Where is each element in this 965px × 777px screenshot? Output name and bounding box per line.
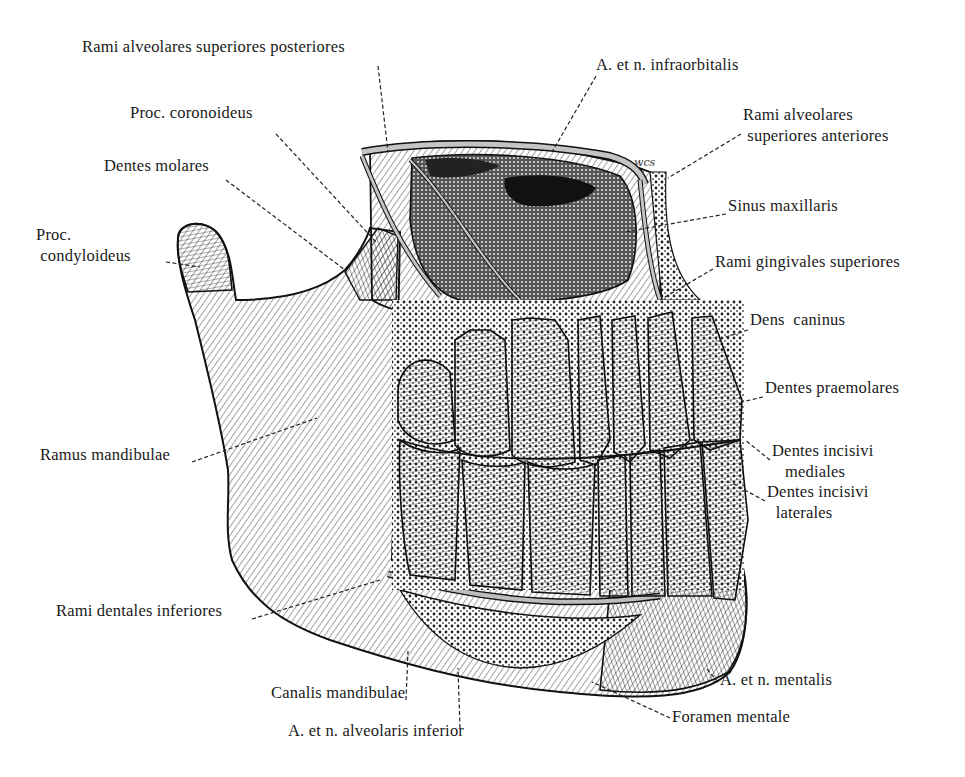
leader-line-dentes-molares bbox=[226, 180, 345, 270]
label-rami-dentales-inferiores: Rami dentales inferiores bbox=[56, 600, 222, 621]
teeth bbox=[392, 300, 748, 600]
leader-line-rami-alveolares-superiores-anteriores bbox=[668, 134, 741, 178]
artist-signature: wcs bbox=[634, 156, 656, 169]
label-rami-alveolares-superiores-posteriores: Rami alveolares superiores posteriores bbox=[82, 36, 345, 57]
leader-line-rami-alveolares-superiores-posteriores bbox=[378, 66, 388, 152]
label-dentes-praemolares: Dentes praemolares bbox=[765, 377, 899, 398]
label-dentes-incisivi-mediales: Dentes incisivi mediales bbox=[772, 440, 874, 482]
label-rami-alveolares-superiores-anteriores: Rami alveolares superiores anteriores bbox=[743, 104, 889, 146]
label-dentes-incisivi-laterales: Dentes incisivi laterales bbox=[767, 481, 869, 523]
label-canalis-mandibulae: Canalis mandibulae bbox=[271, 682, 405, 703]
label-proc-coronoideus: Proc. coronoideus bbox=[130, 102, 253, 123]
leader-line-proc-coronoideus bbox=[276, 134, 376, 242]
label-sinus-maxillaris: Sinus maxillaris bbox=[728, 195, 838, 216]
label-dentes-molares: Dentes molares bbox=[104, 155, 209, 176]
label-a-et-n-alveolaris-inferior: A. et n. alveolaris inferior bbox=[288, 720, 464, 741]
leader-line-dentes-incisivi-mediales bbox=[745, 440, 770, 460]
label-foramen-mentale: Foramen mentale bbox=[672, 706, 790, 727]
label-a-et-n-infraorbitalis: A. et n. infraorbitalis bbox=[596, 54, 739, 75]
leader-line-a-et-n-infraorbitalis bbox=[552, 76, 596, 152]
label-rami-gingivales-superiores: Rami gingivales superiores bbox=[715, 251, 900, 272]
label-dens-caninus: Dens caninus bbox=[750, 309, 845, 330]
label-ramus-mandibulae: Ramus mandibulae bbox=[40, 444, 170, 465]
leader-line-dentes-praemolares bbox=[742, 397, 763, 402]
label-proc-condyloideus: Proc. condyloideus bbox=[36, 224, 131, 266]
label-a-et-n-mentalis: A. et n. mentalis bbox=[720, 669, 832, 690]
anatomical-figure: wcs Rami alveolares superiores posterior… bbox=[0, 0, 965, 777]
